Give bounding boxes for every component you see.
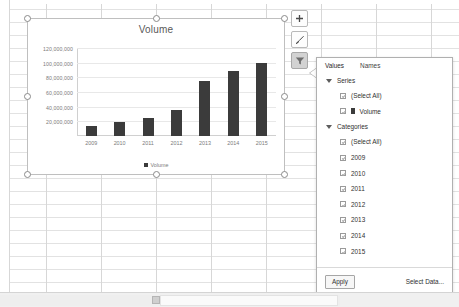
checkbox-icon[interactable] xyxy=(340,186,346,192)
select-data-link[interactable]: Select Data... xyxy=(406,278,444,285)
plus-icon xyxy=(295,14,304,23)
grid-left-margin xyxy=(0,0,10,292)
bar-slot: 2014 xyxy=(219,48,247,136)
scrollbar-thumb[interactable] xyxy=(152,296,160,304)
y-axis-tick-label: 40,000,000 xyxy=(46,105,73,111)
legend-swatch-icon xyxy=(144,163,148,167)
filter-item-label: (Select All) xyxy=(351,138,382,145)
checkbox-icon[interactable] xyxy=(340,93,346,99)
legend-label: Volume xyxy=(151,162,169,168)
chevron-down-icon[interactable] xyxy=(326,79,332,83)
bar[interactable] xyxy=(256,63,267,136)
scrollbar-page-area[interactable] xyxy=(160,295,338,306)
filter-item-label: (Select All) xyxy=(351,92,382,99)
resize-handle-bottom-center[interactable] xyxy=(153,171,160,178)
filter-item-label: 2015 xyxy=(351,248,365,255)
chart-filters-button[interactable] xyxy=(291,52,308,69)
checkbox-icon[interactable] xyxy=(340,155,346,161)
x-axis-tick-label: 2015 xyxy=(256,140,268,146)
filter-item-label: 2010 xyxy=(351,170,365,177)
filter-item[interactable]: 2012 xyxy=(317,197,452,213)
apply-button[interactable]: Apply xyxy=(325,275,355,289)
resize-handle-bottom-left[interactable] xyxy=(24,171,31,178)
x-axis-tick-label: 2011 xyxy=(142,140,154,146)
y-axis-tick-label: 100,000,000 xyxy=(43,61,73,67)
bar[interactable] xyxy=(143,118,154,136)
checkbox-icon[interactable] xyxy=(340,170,346,176)
y-axis-tick-label: 20,000,000 xyxy=(46,119,73,125)
chevron-down-icon[interactable] xyxy=(326,125,332,129)
filter-item-label: 2011 xyxy=(351,185,365,192)
resize-handle-middle-left[interactable] xyxy=(24,93,31,100)
filter-item-label: 2014 xyxy=(351,232,365,239)
resize-handle-bottom-right[interactable] xyxy=(281,171,288,178)
x-axis-tick-label: 2009 xyxy=(85,140,97,146)
bar[interactable] xyxy=(199,81,210,136)
chart-object[interactable]: Volume 20,000,00040,000,00060,000,00080,… xyxy=(27,18,285,175)
checkbox-icon[interactable] xyxy=(340,201,346,207)
filter-item[interactable]: Volume xyxy=(317,104,452,120)
filter-group-header[interactable]: Categories xyxy=(317,119,452,134)
checkbox-icon[interactable] xyxy=(340,217,346,223)
checkbox-icon[interactable] xyxy=(340,233,346,239)
filter-item-label: 2009 xyxy=(351,154,365,161)
filter-item[interactable]: 2014 xyxy=(317,228,452,244)
panel-tabs: Values Names xyxy=(317,58,452,73)
bar-slot: 2013 xyxy=(191,48,219,136)
checkbox-icon[interactable] xyxy=(340,108,346,114)
y-axis-tick-label: 60,000,000 xyxy=(46,90,73,96)
funnel-icon xyxy=(295,56,305,66)
chart-plot-area: 20,000,00040,000,00060,000,00080,000,000… xyxy=(77,48,276,136)
resize-handle-top-right[interactable] xyxy=(281,15,288,22)
tab-names[interactable]: Names xyxy=(360,62,380,69)
bar-slot: 2015 xyxy=(248,48,276,136)
bar[interactable] xyxy=(171,110,182,136)
x-axis-tick-label: 2013 xyxy=(199,140,211,146)
bar-slot: 2012 xyxy=(162,48,190,136)
spreadsheet-chart-screen: Volume 20,000,00040,000,00060,000,00080,… xyxy=(0,0,459,307)
bar[interactable] xyxy=(114,122,125,136)
filter-group-header[interactable]: Series xyxy=(317,73,452,88)
y-axis-tick-label: 120,000,000 xyxy=(43,46,73,52)
filter-item-label: 2012 xyxy=(351,201,365,208)
filter-item[interactable]: 2011 xyxy=(317,181,452,197)
panel-footer: Apply Select Data... xyxy=(317,267,452,295)
brush-icon xyxy=(295,35,305,45)
chart-elements-button[interactable] xyxy=(291,10,308,27)
grid-top-margin xyxy=(0,0,459,4)
filter-item[interactable]: 2010 xyxy=(317,165,452,181)
chart-title: Volume xyxy=(28,24,284,35)
x-axis-tick-label: 2010 xyxy=(114,140,126,146)
bar[interactable] xyxy=(228,71,239,136)
resize-handle-top-left[interactable] xyxy=(24,15,31,22)
tab-values[interactable]: Values xyxy=(325,62,344,69)
series-color-swatch-icon xyxy=(351,108,355,114)
filter-item[interactable]: (Select All) xyxy=(317,88,452,104)
bar-series: 2009201020112012201320142015 xyxy=(77,48,276,136)
bar-slot: 2009 xyxy=(77,48,105,136)
filter-group-label: Categories xyxy=(337,123,368,130)
filter-item-label: Volume xyxy=(360,108,381,115)
chart-filter-panel: Values Names Series(Select All)VolumeCat… xyxy=(316,57,453,296)
checkbox-icon[interactable] xyxy=(340,139,346,145)
filter-item[interactable]: (Select All) xyxy=(317,134,452,150)
chart-legend: Volume xyxy=(28,162,284,168)
resize-handle-top-center[interactable] xyxy=(153,15,160,22)
filter-item[interactable]: 2015 xyxy=(317,243,452,259)
horizontal-scrollbar[interactable] xyxy=(0,292,459,307)
bar-slot: 2010 xyxy=(105,48,133,136)
filter-item-label: 2013 xyxy=(351,216,365,223)
x-axis-tick-label: 2014 xyxy=(227,140,239,146)
y-axis-tick-label: 80,000,000 xyxy=(46,75,73,81)
x-axis-tick-label: 2012 xyxy=(170,140,182,146)
resize-handle-middle-right[interactable] xyxy=(281,93,288,100)
filter-item[interactable]: 2013 xyxy=(317,212,452,228)
filter-group-label: Series xyxy=(337,77,355,84)
bar[interactable] xyxy=(86,126,97,136)
filter-item[interactable]: 2009 xyxy=(317,150,452,166)
panel-filter-list[interactable]: Series(Select All)VolumeCategories(Selec… xyxy=(317,73,452,267)
chart-styles-button[interactable] xyxy=(291,31,308,48)
bar-slot: 2011 xyxy=(134,48,162,136)
checkbox-icon[interactable] xyxy=(340,248,346,254)
chart-side-buttons xyxy=(291,10,308,73)
